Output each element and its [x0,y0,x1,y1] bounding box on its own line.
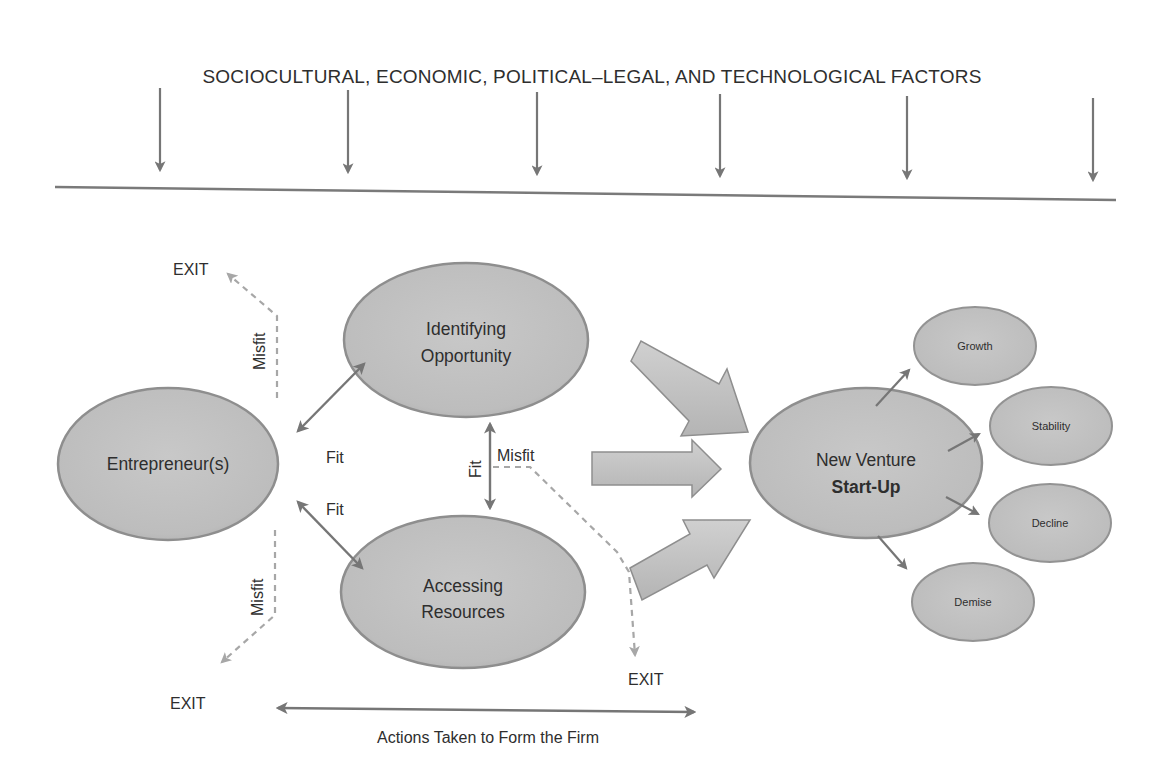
node-resources-label-line2: Resources [421,602,505,622]
node-entrepreneur-label: Entrepreneur(s) [107,454,230,474]
fit-label-vertical: Fit [467,460,484,478]
arrow-to-demise-icon [878,536,906,568]
exit-label-top-left: EXIT [173,261,209,278]
outcome-decline-label: Decline [1032,517,1069,529]
fit-label-lower: Fit [326,501,344,518]
misfit-label-lower: Misfit [249,578,266,616]
actions-caption: Actions Taken to Form the Firm [377,729,599,746]
fit-label-upper: Fit [326,449,344,466]
misfit-label-center: Misfit [497,447,535,464]
block-arrows [592,341,750,600]
outcome-growth: Growth [914,307,1036,385]
node-opportunity-label-line1: Identifying [426,319,506,339]
outcome-growth-label: Growth [957,340,992,352]
environment-arrows [160,88,1093,180]
node-accessing-resources: Accessing Resources [341,516,585,668]
node-venture-label-line1: New Venture [816,450,916,470]
fit-arrow-entrepreneur-opportunity-icon [298,364,364,431]
outcome-stability: Stability [990,387,1112,465]
outcome-stability-label: Stability [1032,420,1071,432]
block-arrow-from-opportunity-icon [631,341,748,436]
node-entrepreneur: Entrepreneur(s) [58,388,278,540]
actions-timeline: Actions Taken to Form the Firm [278,708,694,746]
node-new-venture-startup: New Venture Start-Up [750,388,982,538]
timeline-double-arrow-icon [278,708,694,712]
block-arrow-center-icon [592,440,721,497]
outcome-decline: Decline [989,484,1111,562]
environment-divider [55,187,1116,200]
node-resources-label-line1: Accessing [423,576,503,596]
environment-title: SOCIOCULTURAL, ECONOMIC, POLITICAL–LEGAL… [202,66,981,87]
environment-factors: SOCIOCULTURAL, ECONOMIC, POLITICAL–LEGAL… [55,66,1116,200]
block-arrow-from-resources-icon [630,520,750,600]
node-identifying-opportunity: Identifying Opportunity [344,263,588,417]
exit-label-bottom-center: EXIT [628,671,664,688]
new-venture-process-diagram: SOCIOCULTURAL, ECONOMIC, POLITICAL–LEGAL… [0,0,1168,779]
node-opportunity-label-line2: Opportunity [421,346,512,366]
exit-label-bottom-left: EXIT [170,695,206,712]
outcome-demise: Demise [912,563,1034,641]
outcome-demise-label: Demise [954,596,991,608]
misfit-label-upper: Misfit [251,332,268,370]
node-venture-label-line2: Start-Up [831,477,900,497]
